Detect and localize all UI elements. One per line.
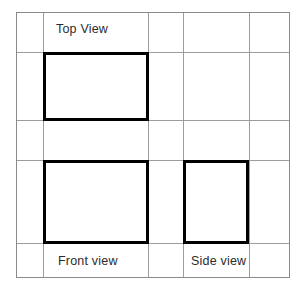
- side-view-label: Side view: [191, 255, 246, 268]
- grid-and-shapes-svg: [0, 0, 305, 290]
- front-view-label: Front view: [58, 255, 118, 268]
- top-view-label: Top View: [56, 23, 108, 36]
- orthographic-projection-drawing: Top View Front view Side view: [0, 0, 305, 290]
